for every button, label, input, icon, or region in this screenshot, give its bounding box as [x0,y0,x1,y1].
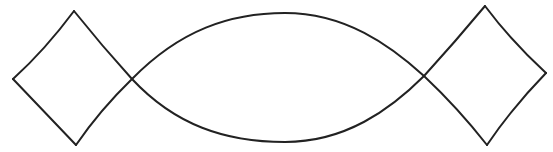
figure-drawing [0,0,553,152]
left-diamond-upper-left-edge [13,11,74,79]
left-diamond-lower-left-edge [13,79,76,145]
right-diamond-upper-right-edge [485,6,546,73]
figure-canvas [0,0,553,152]
right-diamond-lower-right-edge [487,73,546,145]
lens-upper-curve [76,13,487,145]
